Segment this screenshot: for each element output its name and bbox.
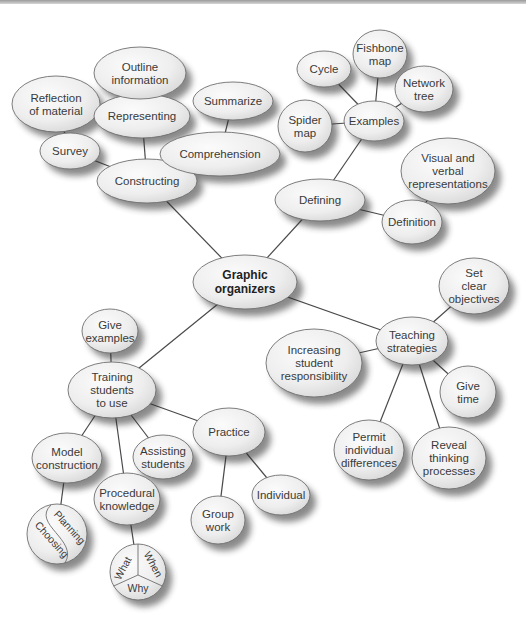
node-label: Constructing <box>115 175 180 187</box>
node-label: examples <box>85 332 134 344</box>
node-label: differences <box>341 457 397 469</box>
node-label: strategies <box>387 342 437 354</box>
node-label: Reveal <box>431 439 467 451</box>
node-label: Reflection <box>30 92 81 104</box>
node-label: student <box>295 357 334 369</box>
node-label: Give <box>98 319 122 331</box>
node-label: Comprehension <box>179 148 260 160</box>
node-comprehension[interactable]: Comprehension <box>160 132 280 176</box>
node-label: individual <box>345 444 393 456</box>
node-label: Defining <box>299 194 341 206</box>
node-individual[interactable]: Individual <box>252 475 310 515</box>
node-model-construction[interactable]: Modelconstruction <box>32 433 102 483</box>
node-label: Assisting <box>140 445 186 457</box>
node-summarize[interactable]: Summarize <box>193 82 273 120</box>
node-defining[interactable]: Defining <box>275 179 365 221</box>
node-set-clear-objectives[interactable]: Setclearobjectives <box>439 258 509 314</box>
node-label: objectives <box>448 293 499 305</box>
node-representing[interactable]: Representing <box>94 94 190 138</box>
node-label: Cycle <box>310 63 339 75</box>
concept-map: GraphicorganizersConstructingSurveyRefle… <box>0 0 526 622</box>
node-label: responsibility <box>281 370 348 382</box>
node-label: Definition <box>388 216 436 228</box>
node-label: to use <box>96 397 127 409</box>
node-examples[interactable]: Examples <box>344 101 404 141</box>
node-label: verbal <box>432 165 463 177</box>
node-label: Representing <box>108 110 176 122</box>
node-label: Visual and <box>421 152 475 164</box>
node-training-students-to-use[interactable]: Trainingstudentsto use <box>68 362 156 418</box>
node-label: Spider <box>288 114 321 126</box>
node-graphic-organizers[interactable]: Graphicorganizers <box>193 255 297 309</box>
node-label: tree <box>414 90 434 102</box>
node-outline-information[interactable]: Outlineinformation <box>94 47 186 99</box>
node-label: thinking <box>429 452 469 464</box>
node-group-work[interactable]: Groupwork <box>191 496 245 544</box>
node-label: Fishbone <box>356 42 403 54</box>
node-label: Group <box>202 508 234 520</box>
node-label: Examples <box>349 115 400 127</box>
node-survey[interactable]: Survey <box>40 133 100 169</box>
node-label: organizers <box>215 282 276 296</box>
node-what-when-why[interactable]: WhatWhenWhy <box>110 544 166 600</box>
node-label: Set <box>465 267 483 279</box>
node-label: Teaching <box>389 329 435 341</box>
node-label: information <box>112 74 169 86</box>
node-label: Network <box>403 77 445 89</box>
node-label: Give <box>456 380 480 392</box>
node-label: map <box>369 55 391 67</box>
node-practice[interactable]: Practice <box>193 408 265 456</box>
node-label: Graphic <box>222 268 268 282</box>
node-label: Permit <box>352 431 386 443</box>
node-label: Increasing <box>287 344 340 356</box>
node-label: Summarize <box>204 95 262 107</box>
node-fishbone-map[interactable]: Fishbonemap <box>353 30 407 78</box>
node-teaching-strategies[interactable]: Teachingstrategies <box>376 317 448 365</box>
node-spider-map[interactable]: Spidermap <box>278 100 332 152</box>
node-label: Survey <box>52 145 88 157</box>
node-label: clear <box>462 280 487 292</box>
node-definition[interactable]: Definition <box>382 200 442 244</box>
node-label: processes <box>423 465 476 477</box>
node-label: students <box>90 384 134 396</box>
node-label: knowledge <box>100 500 155 512</box>
node-planning-choosing[interactable]: PlanningChoosing <box>27 504 88 564</box>
label-why: Why <box>128 582 150 594</box>
node-assisting-students[interactable]: Assistingstudents <box>133 435 193 479</box>
node-increasing-student-responsibility[interactable]: Increasingstudentresponsibility <box>266 329 362 397</box>
node-label: representations <box>408 178 488 190</box>
node-procedural-knowledge[interactable]: Proceduralknowledge <box>94 473 160 525</box>
node-permit-individual-differences[interactable]: Permitindividualdifferences <box>334 420 404 480</box>
node-label: Training <box>91 371 132 383</box>
node-give-time[interactable]: Givetime <box>440 366 496 418</box>
node-label: Practice <box>208 426 250 438</box>
node-visual-and-verbal-representations[interactable]: Visual andverbalrepresentations <box>401 138 495 204</box>
node-label: Individual <box>257 489 306 501</box>
node-give-examples[interactable]: Giveexamples <box>82 309 138 353</box>
node-label: students <box>141 458 185 470</box>
node-network-tree[interactable]: Networktree <box>395 66 453 112</box>
node-reflection-of-material[interactable]: Reflectionof material <box>12 76 100 132</box>
node-label: time <box>457 393 479 405</box>
node-reveal-thinking-processes[interactable]: Revealthinkingprocesses <box>412 427 486 489</box>
node-label: of material <box>29 105 83 117</box>
node-label: map <box>294 127 316 139</box>
node-label: construction <box>36 459 98 471</box>
node-label: Outline <box>122 61 158 73</box>
node-label: Procedural <box>99 487 155 499</box>
node-cycle[interactable]: Cycle <box>297 51 351 87</box>
node-label: Model <box>51 446 82 458</box>
node-label: work <box>205 521 231 533</box>
